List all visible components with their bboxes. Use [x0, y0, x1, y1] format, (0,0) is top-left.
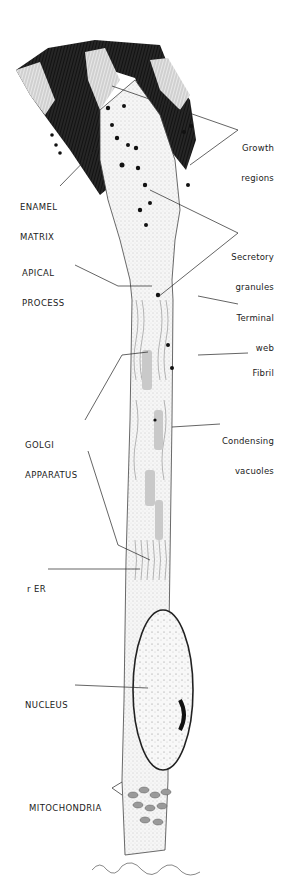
label-nucleus: NUCLEUS	[25, 680, 68, 720]
nucleus-shape	[133, 610, 193, 770]
label-fibril: Fibril	[253, 348, 274, 388]
label-line: granules	[231, 282, 274, 292]
label-line: regions	[241, 173, 274, 183]
label-line: Growth	[241, 143, 274, 153]
label-growth-regions: Growth regions	[241, 123, 274, 193]
label-apical-process: APICAL PROCESS	[22, 248, 65, 318]
label-line: GOLGI	[25, 440, 77, 450]
label-condensing-vacuoles: Condensing vacuoles	[222, 416, 274, 486]
label-line: r ER	[27, 584, 46, 594]
label-golgi-apparatus: GOLGI APPARATUS	[25, 420, 77, 490]
label-line: NUCLEUS	[25, 700, 68, 710]
label-line: MITOCHONDRIA	[29, 803, 102, 813]
label-line: Fibril	[253, 368, 274, 378]
label-rer: r ER	[27, 564, 46, 604]
label-secretory-granules: Secretory granules	[231, 232, 274, 302]
label-line: PROCESS	[22, 298, 65, 308]
label-line: APICAL	[22, 268, 65, 278]
label-line: Secretory	[231, 252, 274, 262]
label-line: ENAMEL	[20, 202, 57, 212]
label-mitochondria: MITOCHONDRIA	[29, 783, 102, 823]
label-line: Condensing	[222, 436, 274, 446]
label-line: Terminal	[236, 313, 274, 323]
label-line: vacuoles	[222, 466, 274, 476]
label-enamel-matrix: ENAMEL MATRIX	[20, 182, 57, 252]
label-line: MATRIX	[20, 232, 57, 242]
label-line: APPARATUS	[25, 470, 77, 480]
